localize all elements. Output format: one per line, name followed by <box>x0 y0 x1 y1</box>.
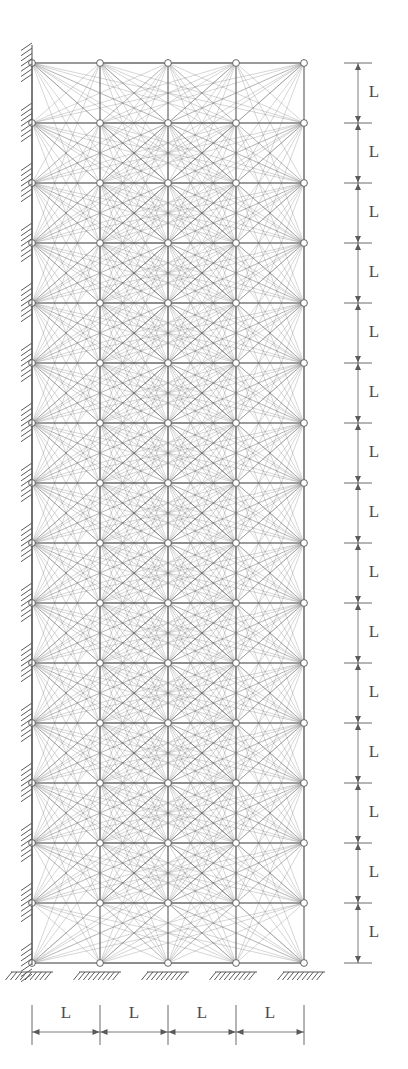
ground-support-group <box>6 972 326 980</box>
truss-node <box>301 780 308 787</box>
horizontal-dimension-arrow <box>297 1029 304 1035</box>
truss-node <box>301 960 308 967</box>
horizontal-dimension-arrow <box>169 1029 176 1035</box>
truss-node <box>97 300 104 307</box>
truss-node <box>97 900 104 907</box>
vertical-dimension-arrow <box>355 296 361 303</box>
ground-support-hatch <box>278 972 324 980</box>
truss-node <box>165 120 172 127</box>
truss-node <box>233 240 240 247</box>
vertical-dimension-label: L <box>369 922 379 941</box>
truss-node <box>233 420 240 427</box>
truss-node <box>165 540 172 547</box>
vertical-dimension-label: L <box>369 802 379 821</box>
vertical-dimension-arrow <box>355 184 361 191</box>
truss-node <box>301 300 308 307</box>
frame-grid-group <box>32 63 304 963</box>
vertical-dimension-arrow <box>355 596 361 603</box>
truss-node <box>233 360 240 367</box>
vertical-dimension-arrow <box>355 776 361 783</box>
truss-node <box>165 300 172 307</box>
truss-node <box>97 60 104 67</box>
horizontal-dimension-arrow <box>101 1029 108 1035</box>
truss-node <box>301 240 308 247</box>
vertical-dimension-arrow <box>355 364 361 371</box>
truss-node <box>233 900 240 907</box>
vertical-dimension-label: L <box>369 262 379 281</box>
truss-node <box>165 240 172 247</box>
horizontal-dimension-arrow <box>161 1029 168 1035</box>
vertical-dimension-arrow <box>355 656 361 663</box>
truss-node <box>165 720 172 727</box>
truss-node <box>301 900 308 907</box>
vertical-dimension-arrow <box>355 844 361 851</box>
truss-node <box>233 720 240 727</box>
ground-structure-diagram: LLLLLLLLLLLLLLL LLLL <box>0 0 408 1069</box>
vertical-dimension-arrow <box>355 896 361 903</box>
vertical-dimension-label: L <box>369 562 379 581</box>
truss-node <box>97 960 104 967</box>
vertical-dimension-label: L <box>369 682 379 701</box>
truss-node <box>165 660 172 667</box>
truss-node <box>165 960 172 967</box>
truss-node <box>233 840 240 847</box>
truss-node <box>301 600 308 607</box>
truss-node <box>97 120 104 127</box>
truss-node <box>233 960 240 967</box>
truss-node <box>233 780 240 787</box>
vertical-dimension-label: L <box>369 502 379 521</box>
truss-node <box>301 60 308 67</box>
truss-node <box>165 420 172 427</box>
vertical-dimension-arrow <box>355 236 361 243</box>
vertical-dimension-label: L <box>369 742 379 761</box>
vertical-dimension-arrow <box>355 724 361 731</box>
horizontal-dimension-group: LLLL <box>32 1003 304 1045</box>
truss-node <box>97 360 104 367</box>
frame-grid-lines <box>32 63 304 963</box>
vertical-dimension-arrow <box>355 356 361 363</box>
vertical-dimension-arrow <box>355 664 361 671</box>
figure-root: LLLLLLLLLLLLLLL LLLL <box>0 0 408 1069</box>
truss-node <box>97 660 104 667</box>
horizontal-dimension-arrow <box>93 1029 100 1035</box>
vertical-dimension-label: L <box>369 322 379 341</box>
vertical-dimension-arrow <box>355 716 361 723</box>
truss-node <box>301 120 308 127</box>
truss-node <box>97 720 104 727</box>
vertical-dimension-arrow <box>355 124 361 131</box>
truss-node <box>301 840 308 847</box>
vertical-dimension-arrow <box>355 304 361 311</box>
truss-node <box>97 240 104 247</box>
horizontal-dimension-arrow <box>33 1029 40 1035</box>
vertical-dimension-arrow <box>355 904 361 911</box>
truss-node <box>233 600 240 607</box>
vertical-dimension-group: LLLLLLLLLLLLLLL <box>344 63 379 963</box>
truss-node <box>301 660 308 667</box>
truss-node <box>233 480 240 487</box>
vertical-dimension-arrow <box>355 244 361 251</box>
horizontal-dimension-label: L <box>265 1003 275 1022</box>
vertical-dimension-label: L <box>369 382 379 401</box>
horizontal-dimension-label: L <box>61 1003 71 1022</box>
vertical-dimension-label: L <box>369 442 379 461</box>
truss-node <box>233 60 240 67</box>
truss-node <box>97 180 104 187</box>
vertical-dimension-arrow <box>355 784 361 791</box>
truss-node <box>233 120 240 127</box>
truss-node <box>165 60 172 67</box>
truss-node <box>301 540 308 547</box>
horizontal-dimension-arrow <box>229 1029 236 1035</box>
truss-node <box>233 180 240 187</box>
truss-node <box>97 600 104 607</box>
vertical-dimension-arrow <box>355 484 361 491</box>
truss-node <box>233 300 240 307</box>
vertical-dimension-arrow <box>355 536 361 543</box>
truss-node <box>301 180 308 187</box>
ground-support-hatch <box>74 972 120 980</box>
truss-node <box>97 480 104 487</box>
vertical-dimension-label: L <box>369 82 379 101</box>
horizontal-dimension-label: L <box>197 1003 207 1022</box>
truss-node <box>165 840 172 847</box>
truss-node <box>301 420 308 427</box>
truss-node <box>301 480 308 487</box>
